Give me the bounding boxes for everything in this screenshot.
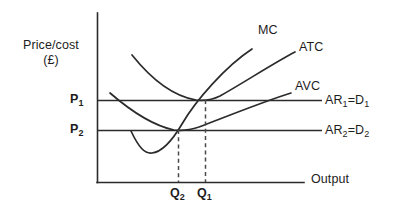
- price-tick-p1-subscript: 1: [78, 98, 83, 108]
- ar1-demand-label: AR1=D1: [325, 93, 369, 107]
- ar2-prefix: AR: [325, 123, 343, 137]
- quantity-tick-q1: Q1: [197, 186, 212, 200]
- quantity-tick-q1-subscript: 1: [207, 192, 212, 202]
- price-tick-p2: P2: [70, 122, 84, 136]
- ar1-subscript: 1: [343, 99, 348, 109]
- atc-curve: [132, 52, 295, 100]
- ar2-demand-label: AR2=D2: [325, 123, 369, 137]
- atc-curve-label: ATC: [299, 40, 323, 54]
- y-axis-label-line2: (£): [43, 53, 59, 67]
- price-tick-p2-subscript: 2: [78, 128, 83, 138]
- quantity-tick-q1-base: Q: [197, 186, 207, 200]
- cost-revenue-diagram: Price/cost(£) P1 P2 Q2 Q1 MC ATC AVC AR1…: [0, 0, 393, 214]
- mc-curve-label: MC: [258, 23, 278, 37]
- ar2-subscript-2: 2: [364, 129, 369, 139]
- quantity-tick-q2-subscript: 2: [180, 192, 185, 202]
- y-axis-label: Price/cost(£): [8, 38, 94, 68]
- quantity-tick-q2: Q2: [170, 186, 185, 200]
- x-axis-label: Output: [311, 172, 349, 186]
- ar2-mid: =D: [348, 123, 365, 137]
- quantity-tick-q2-base: Q: [170, 186, 180, 200]
- ar1-prefix: AR: [325, 93, 343, 107]
- ar1-mid: =D: [348, 93, 365, 107]
- y-axis-label-line1: Price/cost: [23, 38, 79, 52]
- avc-curve-label: AVC: [295, 79, 320, 93]
- ar1-subscript-2: 1: [364, 99, 369, 109]
- ar2-subscript: 2: [343, 129, 348, 139]
- price-tick-p1: P1: [70, 92, 84, 106]
